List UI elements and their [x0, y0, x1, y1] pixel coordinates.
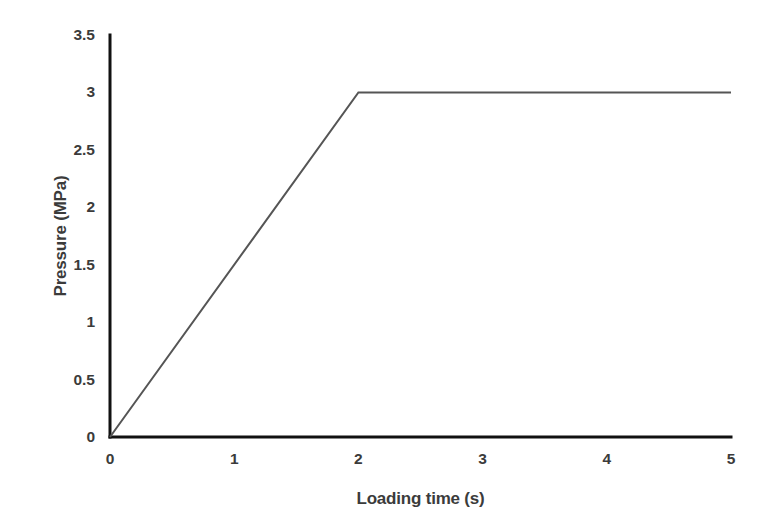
chart-figure: Pressure (MPa) Loading time (s) 00.511.5…: [0, 0, 771, 528]
plot-area: [0, 0, 771, 528]
series-line-0: [110, 92, 731, 437]
axes-group: [110, 35, 731, 437]
data-series-group: [110, 92, 731, 437]
